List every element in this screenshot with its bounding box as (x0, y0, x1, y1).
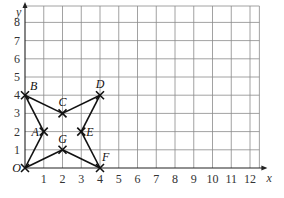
x-tick-label: 4 (97, 172, 103, 186)
x-axis-label: x (265, 171, 272, 185)
y-tick-label: 2 (14, 125, 20, 139)
x-tick-label: 2 (60, 172, 66, 186)
x-tick-label: 5 (116, 172, 122, 186)
x-tick-label: 12 (244, 172, 256, 186)
y-tick-label: 4 (14, 88, 20, 102)
x-tick-label: 8 (172, 172, 178, 186)
x-tick-label: 1 (41, 172, 47, 186)
point-label-B: B (30, 79, 38, 93)
point-label-O: O (12, 161, 21, 175)
point-label-F: F (101, 150, 110, 164)
x-tick-label: 9 (191, 172, 197, 186)
x-tick-label: 11 (225, 172, 237, 186)
y-tick-label: 7 (14, 34, 20, 48)
point-label-E: E (85, 125, 94, 139)
x-tick-label: 3 (78, 172, 84, 186)
x-tick-label: 10 (207, 172, 219, 186)
point-label-C: C (58, 95, 67, 109)
x-axis-arrow-icon (261, 166, 267, 171)
point-label-A: A (30, 125, 39, 139)
y-tick-label: 3 (14, 106, 20, 120)
star-shape-plot: 12345678910111212345678xy OABCDEFG (0, 0, 284, 198)
y-tick-label: 6 (14, 52, 20, 66)
y-tick-label: 5 (14, 70, 20, 84)
y-axis-arrow-icon (23, 2, 28, 8)
x-tick-label: 6 (135, 172, 141, 186)
y-axis-label: y (15, 5, 22, 19)
y-tick-label: 1 (14, 143, 20, 157)
x-tick-label: 7 (153, 172, 159, 186)
point-label-G: G (58, 132, 67, 146)
coordinate-grid-diagram: 12345678910111212345678xy OABCDEFG (0, 0, 284, 198)
point-label-D: D (95, 77, 105, 91)
